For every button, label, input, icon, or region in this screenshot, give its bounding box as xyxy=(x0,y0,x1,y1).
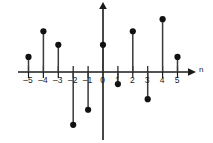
stem-marker xyxy=(70,122,76,128)
stem-marker xyxy=(85,107,91,113)
stem-marker xyxy=(130,28,136,34)
stem-marker xyxy=(40,28,46,34)
tick-label: –4 xyxy=(38,75,48,85)
tick-label: –3 xyxy=(53,75,63,85)
stem-marker xyxy=(160,16,166,22)
stem-marker xyxy=(25,54,31,60)
tick-label: –1 xyxy=(83,75,93,85)
arrow-up-icon xyxy=(99,2,107,9)
tick-label: 1 xyxy=(115,75,120,85)
x-axis-label: n xyxy=(199,65,203,74)
tick-label: 5 xyxy=(175,75,180,85)
stem-marker xyxy=(100,42,106,48)
tick-label: 2 xyxy=(130,75,135,85)
arrow-right-icon xyxy=(188,68,196,76)
stem-plot-canvas: –5–4–3–2–1012345 n xyxy=(0,0,213,143)
stem-marker xyxy=(55,42,61,48)
stem-plot-figure: –5–4–3–2–1012345 n xyxy=(0,0,213,143)
tick-labels-layer: –5–4–3–2–1012345 xyxy=(23,75,179,85)
tick-label: –5 xyxy=(23,75,33,85)
tick-label: –2 xyxy=(68,75,78,85)
tick-label: 4 xyxy=(160,75,165,85)
tick-label: 3 xyxy=(145,75,150,85)
stem-marker xyxy=(174,54,180,60)
stem-marker xyxy=(145,96,151,102)
tick-label: 0 xyxy=(100,75,105,85)
